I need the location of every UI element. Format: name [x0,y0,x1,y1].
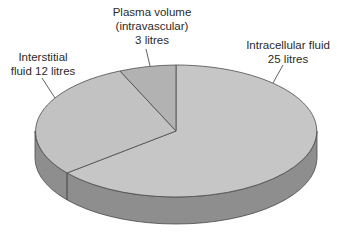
leader-interstitial [42,78,55,98]
leader-plasma [146,49,150,66]
label-plasma-line3: 3 litres [104,33,200,47]
label-interstitial-line2: fluid 12 litres [10,64,76,78]
label-interstitial: Interstitial fluid 12 litres [10,50,76,78]
label-intracellular-line1: Intracellular fluid [244,38,332,52]
label-plasma: Plasma volume (intravascular) 3 litres [104,5,200,47]
label-plasma-line1: Plasma volume [104,5,200,19]
leader-intracellular [273,65,283,83]
label-interstitial-line1: Interstitial [10,50,76,64]
label-intracellular: Intracellular fluid 25 litres [244,38,332,66]
label-intracellular-line2: 25 litres [244,52,332,66]
label-plasma-line2: (intravascular) [104,19,200,33]
